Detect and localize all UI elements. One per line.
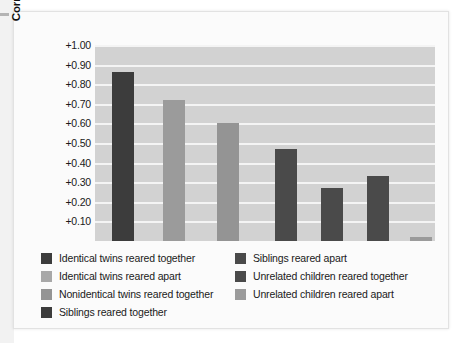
bar: [217, 123, 239, 241]
scan-edge-mark: [0, 13, 9, 16]
chart-page-frame: Correlation of IQ scores +1.00+0.90+0.80…: [13, 11, 449, 329]
legend-item: Siblings reared apart: [235, 249, 408, 267]
legend-item: Unrelated children reared apart: [235, 285, 408, 303]
plot-area: [95, 45, 435, 241]
legend-swatch-icon: [235, 271, 246, 282]
bar: [410, 237, 432, 241]
y-axis-tick-label: +0.30: [65, 176, 91, 188]
legend-item-label: Unrelated children reared together: [253, 270, 408, 282]
legend-item: Unrelated children reared together: [235, 267, 408, 285]
y-axis-tick-label: +0.40: [65, 157, 91, 169]
legend-swatch-icon: [41, 307, 52, 318]
legend-item: Siblings reared together: [41, 303, 213, 321]
legend-column-right: Siblings reared apartUnrelated children …: [235, 249, 408, 303]
y-axis-tick-label: +0.10: [65, 215, 91, 227]
bar: [367, 176, 389, 241]
y-axis-tick-label: +0.60: [65, 117, 91, 129]
legend-item-label: Nonidentical twins reared together: [59, 288, 213, 300]
bar: [275, 149, 297, 241]
legend-swatch-icon: [235, 253, 246, 264]
legend-swatch-icon: [235, 289, 246, 300]
legend-item-label: Identical twins reared apart: [59, 270, 181, 282]
legend-item: Nonidentical twins reared together: [41, 285, 213, 303]
y-axis-tick-label: +0.20: [65, 196, 91, 208]
y-axis-tick-label: +0.50: [65, 137, 91, 149]
bar: [163, 100, 185, 241]
legend-swatch-icon: [41, 253, 52, 264]
chart-legend: Identical twins reared togetherIdentical…: [41, 249, 441, 321]
legend-item-label: Siblings reared apart: [253, 252, 347, 264]
legend-item-label: Identical twins reared together: [59, 252, 195, 264]
y-axis-tick-label: +0.70: [65, 98, 91, 110]
y-axis-tick-label: +1.00: [65, 39, 91, 51]
y-axis-tick-label: +0.80: [65, 78, 91, 90]
legend-column-left: Identical twins reared togetherIdentical…: [41, 249, 213, 321]
bar-series: [95, 45, 435, 241]
scan-edge-decoration: [0, 0, 14, 343]
legend-swatch-icon: [41, 271, 52, 282]
bar: [321, 188, 343, 241]
legend-item: Identical twins reared apart: [41, 267, 213, 285]
legend-item-label: Siblings reared together: [59, 306, 167, 318]
y-axis-tick-label: +0.90: [65, 59, 91, 71]
legend-item-label: Unrelated children reared apart: [253, 288, 394, 300]
y-axis-tick-labels: +1.00+0.90+0.80+0.70+0.60+0.50+0.40+0.30…: [47, 45, 93, 241]
chart-figure: Correlation of IQ scores +1.00+0.90+0.80…: [0, 0, 462, 343]
legend-item: Identical twins reared together: [41, 249, 213, 267]
bar: [112, 72, 134, 241]
legend-swatch-icon: [41, 289, 52, 300]
y-axis-title: Correlation of IQ scores: [10, 0, 22, 50]
